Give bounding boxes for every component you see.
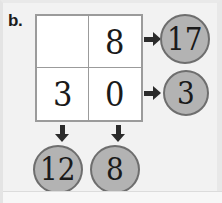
arrow-right-icon-row-1: [144, 32, 161, 46]
row-sum-value-2: 3: [177, 78, 195, 109]
arrow-head: [55, 134, 69, 142]
column-sum-circle-2[interactable]: 8: [90, 145, 140, 194]
column-sum-value-1: 12: [40, 154, 76, 185]
column-sum-circle-1[interactable]: 12: [33, 145, 83, 194]
arrow-shaft: [60, 125, 65, 134]
grid-cell-value-r2c2: 0: [105, 77, 124, 111]
arrow-shaft: [144, 91, 153, 96]
worksheet-screenshot: b. 8 3 0 17: [0, 0, 222, 203]
arrow-shaft: [116, 125, 121, 134]
item-label: b.: [8, 12, 22, 29]
arrow-down-icon-column-2: [111, 125, 125, 142]
arrow-shaft: [144, 37, 153, 42]
grid-cell-r2c1[interactable]: 3: [36, 67, 90, 121]
column-sum-value-2: 8: [106, 154, 124, 185]
number-grid: 8 3 0: [35, 14, 143, 122]
row-sum-value-1: 17: [167, 24, 203, 55]
arrow-down-icon-column-1: [55, 125, 69, 142]
row-sum-circle-2[interactable]: 3: [163, 70, 209, 116]
arrow-head: [153, 86, 161, 100]
arrow-head: [111, 134, 125, 142]
grid-cell-r1c1[interactable]: [36, 15, 90, 69]
grid-cell-r1c2[interactable]: 8: [88, 15, 142, 69]
arrow-right-icon-row-2: [144, 86, 161, 100]
grid-cell-r2c2[interactable]: 0: [88, 67, 142, 121]
panel-bottom-strip: [3, 191, 222, 203]
worksheet-panel: b. 8 3 0 17: [0, 0, 222, 203]
row-sum-circle-1[interactable]: 17: [160, 14, 210, 64]
grid-cell-value-r2c1: 3: [53, 77, 72, 111]
grid-cell-value-r1c2: 8: [105, 25, 124, 59]
